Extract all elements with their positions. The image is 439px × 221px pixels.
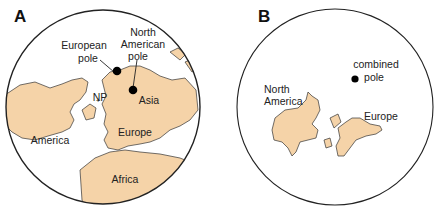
north-american-pole-dot xyxy=(129,86,138,95)
svg-text:Europe: Europe xyxy=(364,110,398,122)
na-pole-label-2: American xyxy=(121,38,166,50)
combined-pole-dot xyxy=(351,75,358,82)
svg-text:pole: pole xyxy=(128,50,148,62)
svg-text:American: American xyxy=(121,38,166,50)
africa-landmass xyxy=(80,150,200,221)
svg-text:Asia: Asia xyxy=(139,94,160,106)
north-america-label-1: North xyxy=(264,83,290,95)
na-pole-label-1: North xyxy=(130,26,156,38)
panel-a: + European pole North American pole NP A… xyxy=(5,10,200,221)
svg-text:combined: combined xyxy=(353,58,399,70)
svg-text:pole: pole xyxy=(78,52,98,64)
svg-text:European: European xyxy=(61,39,107,51)
svg-text:Africa: Africa xyxy=(112,173,139,185)
america-label: America xyxy=(31,134,70,146)
panel-b: combined pole North America Europe xyxy=(237,9,433,205)
combined-pole-label-2: pole xyxy=(364,71,384,83)
europe-label: Europe xyxy=(118,126,152,138)
svg-text:North: North xyxy=(130,26,156,38)
svg-text:NP: NP xyxy=(93,91,108,103)
european-pole-label-2: pole xyxy=(78,52,98,64)
na-pole-label-3: pole xyxy=(128,50,148,62)
svg-text:pole: pole xyxy=(364,71,384,83)
european-pole-label-1: European xyxy=(61,39,107,51)
np-label: NP xyxy=(93,91,108,103)
svg-text:America: America xyxy=(31,134,70,146)
paleomagnetic-diagram: + European pole North American pole NP A… xyxy=(0,0,439,221)
europe-b-label: Europe xyxy=(364,110,398,122)
svg-text:America: America xyxy=(264,95,303,107)
asia-label: Asia xyxy=(139,94,160,106)
svg-text:North: North xyxy=(264,83,290,95)
european-pole-dot xyxy=(113,67,122,76)
africa-label: Africa xyxy=(112,173,139,185)
globe-outline-b xyxy=(237,9,433,205)
north-america-label-2: America xyxy=(264,95,303,107)
svg-text:Europe: Europe xyxy=(118,126,152,138)
combined-pole-label-1: combined xyxy=(353,58,399,70)
